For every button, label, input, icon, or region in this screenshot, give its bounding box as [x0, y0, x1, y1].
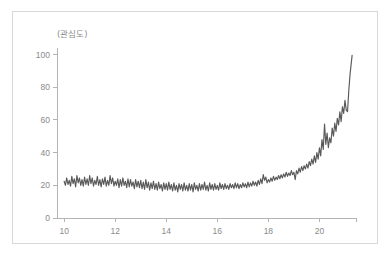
y-tick-label: 0: [45, 213, 50, 223]
y-tick-label: 40: [41, 148, 51, 158]
x-tick-label: 18: [264, 226, 274, 236]
x-tick-label: 20: [315, 226, 325, 236]
x-tick-label: 14: [162, 226, 172, 236]
y-tick-label: 60: [41, 115, 51, 125]
y-axis-tick-group: 020406080100: [36, 50, 57, 223]
x-axis-tick-group: 101214161820: [59, 218, 324, 236]
x-tick-label: 16: [213, 226, 223, 236]
y-axis-caption: (관심도): [57, 29, 88, 39]
y-tick-label: 100: [36, 50, 50, 60]
figure-root: 020406080100 101214161820 (관심도): [0, 0, 391, 265]
y-tick-label: 80: [41, 82, 51, 92]
x-tick-label: 10: [59, 226, 69, 236]
chart-card: 020406080100 101214161820 (관심도): [12, 11, 378, 244]
y-tick-label: 20: [41, 180, 51, 190]
series-line-interest: [64, 55, 352, 191]
interest-line-chart[interactable]: 020406080100 101214161820 (관심도): [13, 12, 379, 245]
x-tick-label: 12: [110, 226, 120, 236]
